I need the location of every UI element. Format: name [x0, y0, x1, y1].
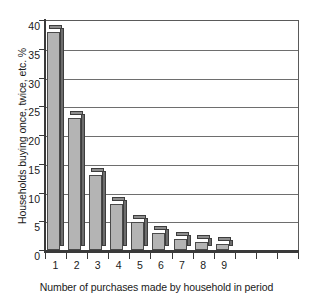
y-tick-mark [39, 49, 45, 50]
y-tick-mark [39, 164, 45, 165]
bar-side-face [81, 114, 85, 246]
bar-top-face [70, 111, 83, 115]
bar-side-face [165, 229, 169, 246]
y-tick-label: 10 [18, 194, 40, 205]
bar-front-face [47, 32, 60, 250]
bar-top-face [112, 197, 125, 201]
bar-front-face [174, 239, 187, 251]
y-tick-mark [39, 135, 45, 136]
x-tick-mark [298, 253, 299, 259]
x-tick-label: 8 [193, 259, 213, 272]
bar [174, 235, 191, 251]
y-tick-mark [39, 106, 45, 107]
bar [152, 229, 169, 250]
bar [131, 218, 148, 250]
y-tick-label: 25 [18, 107, 40, 118]
bar [47, 28, 64, 250]
y-tick-mark [39, 193, 45, 194]
bar-side-face [102, 171, 106, 246]
bar [110, 200, 127, 250]
bar-side-face [208, 238, 212, 246]
bar-side-face [144, 218, 148, 246]
bar [195, 238, 212, 250]
y-tick-mark [39, 221, 45, 222]
x-axis-title: Number of purchases made by household in… [0, 281, 313, 294]
bar-front-face [110, 204, 123, 250]
y-tick-mark [39, 20, 45, 21]
x-tick-label: 5 [130, 259, 150, 272]
x-tick-mark [172, 253, 173, 259]
y-tick-label: 5 [18, 222, 40, 233]
bar-front-face [89, 175, 102, 250]
bar-side-face [60, 28, 64, 246]
x-tick-mark [66, 253, 67, 259]
bar-front-face [131, 222, 144, 250]
bar-front-face [68, 118, 81, 250]
bar-top-face [91, 168, 104, 172]
x-tick-label: 7 [172, 259, 192, 272]
bar-side-face [187, 235, 191, 247]
x-tick-mark [214, 253, 215, 259]
y-tick-label: 15 [18, 165, 40, 176]
x-tick-label: 3 [88, 259, 108, 272]
x-tick-label: 6 [151, 259, 171, 272]
bar [68, 114, 85, 250]
bar-front-face [216, 244, 229, 250]
y-axis-tick-labels: 0510152025303540 [18, 12, 40, 258]
bar [89, 171, 106, 250]
bar-top-face [154, 226, 167, 230]
x-tick-mark [87, 253, 88, 259]
y-tick-label: 35 [18, 50, 40, 61]
x-tick-mark [45, 253, 46, 259]
bar-top-face [133, 215, 146, 219]
y-tick-label: 20 [18, 136, 40, 147]
bar-side-face [123, 200, 127, 246]
bar-top-face [49, 25, 62, 29]
bar-front-face [195, 242, 208, 250]
x-tick-label: 2 [67, 259, 87, 272]
x-tick-mark [150, 253, 151, 259]
x-tick-mark [235, 253, 236, 259]
x-tick-mark [256, 253, 257, 259]
bar-top-face [176, 232, 189, 236]
x-tick-mark [193, 253, 194, 259]
bars-layer [45, 20, 298, 250]
x-tick-label: 9 [214, 259, 234, 272]
y-tick-mark [39, 78, 45, 79]
x-axis-tick-labels: 123456789 [45, 259, 298, 273]
x-tick-mark [129, 253, 130, 259]
y-tick-mark [39, 250, 45, 251]
x-tick-mark [108, 253, 109, 259]
x-tick-mark [277, 253, 278, 259]
x-tick-label: 4 [109, 259, 129, 272]
bar [216, 240, 233, 250]
bar-chart-figure: Households buying once, twice, etc. % 05… [0, 0, 313, 304]
x-tick-label: 1 [46, 259, 66, 272]
bar-top-face [218, 237, 231, 241]
bar-front-face [152, 233, 165, 250]
y-tick-label: 30 [18, 79, 40, 90]
y-tick-label: 0 [18, 251, 40, 262]
y-tick-label: 40 [18, 21, 40, 32]
bar-top-face [197, 235, 210, 239]
